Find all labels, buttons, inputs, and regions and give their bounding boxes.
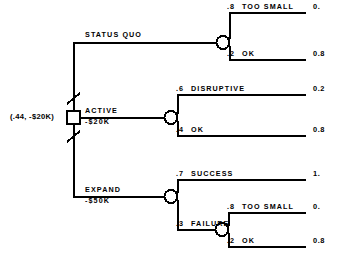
outcome-prob-active-ok: .4 [176,126,184,134]
chance-node-active [165,111,178,124]
outcome-prob-failure-ok: .2 [227,237,235,245]
branch-label-status-quo: STATUS QUO [85,31,142,39]
outcome-label-failure-too-small: TOO SMALL [242,203,294,211]
outcome-label-status-quo-ok: OK [242,50,255,58]
outcome-prob-expand-success: .7 [176,170,184,178]
decision-node-square [67,111,80,124]
branch-cost-expand: -$50K [85,197,110,205]
root-value-label: (.44, -$20K) [10,113,54,121]
outcome-line-status-quo-ok [230,46,307,60]
outcome-line-failure-too-small [229,213,307,227]
payoff-status-quo-too-small: 0. [313,3,320,11]
outcome-label-status-quo-too-small: TOO SMALL [242,3,294,11]
outcome-prob-status-quo-ok: .2 [227,50,235,58]
payoff-failure-ok: 0.8 [313,237,325,245]
branch-cost-active: -$20K [85,118,110,126]
payoff-active-ok: 0.8 [313,126,325,134]
outcome-line-failure-ok [229,233,307,247]
payoff-expand-success: 1. [313,170,320,178]
outcome-label-active-disruptive: DISRUPTIVE [191,85,245,93]
branch-label-expand: EXPAND [85,186,121,194]
payoff-active-disruptive: 0.2 [313,85,325,93]
outcome-label-expand-failure: FAILURE [191,220,229,228]
chance-node-expand [165,190,178,203]
outcome-prob-failure-too-small: .8 [227,203,235,211]
outcome-line-active-disruptive [178,95,307,115]
decision-tree-diagram [0,0,341,263]
outcome-prob-expand-failure: .3 [176,220,184,228]
outcome-label-failure-ok: OK [242,237,255,245]
outcome-line-expand-success [178,180,307,194]
branch-label-active: ACTIVE [85,107,118,115]
chance-node-status-quo [217,36,230,49]
outcome-label-active-ok: OK [191,126,204,134]
outcome-label-expand-success: SUCCESS [191,170,233,178]
payoff-failure-too-small: 0. [313,203,320,211]
outcome-prob-active-disruptive: .6 [176,85,184,93]
outcome-prob-status-quo-too-small: .8 [227,3,235,11]
outcome-line-status-quo-too-small [230,13,307,40]
payoff-status-quo-ok: 0.8 [313,50,325,58]
